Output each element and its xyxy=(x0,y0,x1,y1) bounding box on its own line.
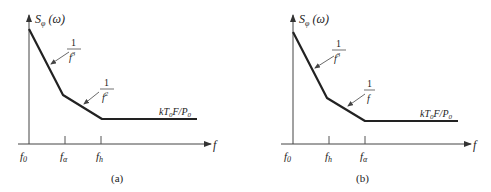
tick-label-falpha: fα xyxy=(360,150,368,164)
x-axis-label: f xyxy=(473,138,478,152)
slope-label-f3: 1 f3 xyxy=(67,37,81,63)
svg-text:1: 1 xyxy=(336,38,341,49)
slope-label-f2: 1 f2 xyxy=(100,77,114,103)
noise-floor-label: kT0F/P0 xyxy=(420,108,453,121)
svg-text:f: f xyxy=(367,93,371,104)
x-axis-label: f xyxy=(213,138,218,152)
svg-text:f2: f2 xyxy=(102,90,109,103)
slope-arrow xyxy=(348,94,365,106)
tick-label-f0: f0 xyxy=(20,150,27,164)
caption-a: (a) xyxy=(111,172,124,185)
panel-a: Sφ(ω) f f0 fα fh 1 f3 1 f2 kT0F/P0 (a) xyxy=(18,12,218,185)
svg-text:1: 1 xyxy=(104,77,109,88)
slope-label-f1: 1 f xyxy=(364,78,375,104)
y-axis-label: Sφ(ω) xyxy=(35,12,65,28)
noise-floor-label: kT0F/P0 xyxy=(159,106,192,119)
tick-label-fh: fh xyxy=(325,150,332,164)
tick-label-fh: fh xyxy=(96,150,103,164)
caption-b: (b) xyxy=(356,172,369,185)
slope-arrow xyxy=(84,92,99,104)
svg-text:f3: f3 xyxy=(334,51,341,64)
svg-text:1: 1 xyxy=(71,37,76,48)
svg-text:f3: f3 xyxy=(69,50,76,63)
tick-label-f0: f0 xyxy=(284,150,291,164)
slope-label-f3: 1 f3 xyxy=(332,38,346,64)
svg-text:1: 1 xyxy=(367,78,372,89)
y-axis-label: Sφ(ω) xyxy=(299,12,329,28)
tick-label-falpha: fα xyxy=(60,150,68,164)
slope-arrow xyxy=(315,56,334,68)
slope-arrow xyxy=(51,52,69,64)
panel-b: Sφ(ω) f f0 fh fα 1 f3 1 f kT0F/P0 (b) xyxy=(281,12,478,185)
phase-noise-diagram: Sφ(ω) f f0 fα fh 1 f3 1 f2 kT0F/P0 (a) S… xyxy=(0,0,491,192)
